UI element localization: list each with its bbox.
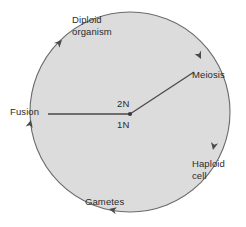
- label-meiosis: Meiosis: [192, 69, 225, 81]
- diagram-canvas: Diploid organism Meiosis Haploid cell Ga…: [0, 0, 246, 227]
- label-ploidy-haploid: 1N: [117, 119, 129, 130]
- center-junction-dot: [128, 112, 132, 116]
- label-diploid-organism: Diploid organism: [72, 14, 112, 37]
- label-fusion: Fusion: [10, 106, 39, 118]
- label-gametes: Gametes: [85, 196, 124, 208]
- label-ploidy-diploid: 2N: [117, 98, 129, 109]
- label-haploid-cell: Haploid cell: [192, 158, 225, 181]
